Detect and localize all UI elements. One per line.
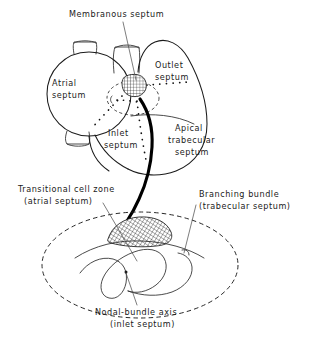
label-outlet-septum-line2: septum	[155, 72, 189, 82]
label-transitional-cell-zone-line2: (atrial septum)	[24, 196, 93, 206]
label-transitional-cell-zone-line1: Transitional cell zone	[17, 184, 115, 194]
leader-nodal-bundle-axis	[126, 273, 137, 305]
cardiac-septum-diagram: Membranous septum Atrial septum Outlet s…	[0, 0, 313, 340]
great-vessel-tube	[113, 47, 139, 73]
label-apical-trabecular-septum-line3: septum	[175, 147, 209, 157]
label-branching-bundle-line2: (trabecular septum)	[199, 201, 291, 211]
label-apical-trabecular-septum-line1: Apical	[175, 123, 203, 133]
nodal-bundle-axis-contour	[80, 249, 166, 298]
label-inlet-septum-line2: septum	[104, 140, 138, 150]
label-nodal-bundle-axis-line1: Nodal-bundle axis	[95, 307, 177, 317]
fibrous-body-hook	[111, 96, 113, 103]
atrial-appendage-inferior	[66, 131, 90, 144]
label-atrial-septum-line1: Atrial	[52, 78, 77, 88]
label-branching-bundle-line1: Branching bundle	[199, 189, 279, 199]
fibrous-body-dot-cluster	[117, 100, 138, 102]
label-inlet-septum-line1: Inlet	[108, 128, 129, 138]
branching-bundle-contour	[128, 253, 192, 295]
figure-root: Membranous septum Atrial septum Outlet s…	[0, 0, 313, 340]
inlet-septum-dotted-margin	[91, 96, 122, 129]
conduction-bundle-path	[127, 99, 152, 221]
inset-group	[42, 212, 238, 318]
leader-branching-bundle	[184, 205, 196, 253]
label-apical-trabecular-septum-line2: trabecular	[168, 135, 215, 145]
membranous-septum-patch	[122, 74, 146, 96]
labels-group: Membranous septum Atrial septum Outlet s…	[17, 9, 291, 329]
label-outlet-septum-line1: Outlet	[155, 60, 183, 70]
outlet-septum-dotted-margin	[147, 82, 189, 85]
great-vessel-tube-rim	[115, 45, 139, 48]
label-nodal-bundle-axis-line2: (inlet septum)	[110, 319, 175, 329]
label-atrial-septum-line2: septum	[52, 90, 86, 100]
label-membranous-septum: Membranous septum	[69, 9, 164, 19]
